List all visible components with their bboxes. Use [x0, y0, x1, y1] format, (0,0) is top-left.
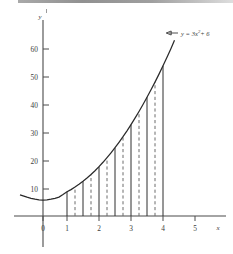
y-tick-label-30: 30: [31, 129, 39, 138]
x-tick-label-3: 3: [129, 224, 133, 233]
equation-tail: + 6: [200, 30, 210, 37]
y-tick-label-60: 60: [31, 45, 39, 54]
x-tick-label-0: 0: [41, 224, 45, 233]
x-axis-label: x: [215, 224, 220, 232]
graph-canvas: 0 1 2 3 4 5 10 20 30 40 50 60 y x y = 3x…: [0, 0, 233, 254]
y-axis-label: y: [37, 13, 42, 21]
x-tick-label-5: 5: [193, 224, 197, 233]
y-tick-label-50: 50: [31, 73, 39, 82]
y-tick-group: [43, 49, 49, 189]
equation-text: y = 3x2+ 6: [180, 29, 210, 37]
x-tick-label-2: 2: [97, 224, 101, 233]
x-tick-label-1: 1: [65, 224, 69, 233]
x-tick-label-4: 4: [161, 224, 165, 233]
equation-main: y = 3x: [180, 30, 198, 37]
y-tick-label-20: 20: [31, 157, 39, 166]
x-tick-group: [43, 216, 195, 221]
graph-figure: 0 1 2 3 4 5 10 20 30 40 50 60 y x y = 3x…: [0, 0, 233, 254]
equation-annotation: y = 3x2+ 6: [180, 29, 210, 37]
riemann-strip-group: [67, 66, 163, 216]
equation-leader: [166, 31, 178, 35]
y-tick-label-40: 40: [31, 101, 39, 110]
y-tick-label-10: 10: [31, 185, 39, 194]
